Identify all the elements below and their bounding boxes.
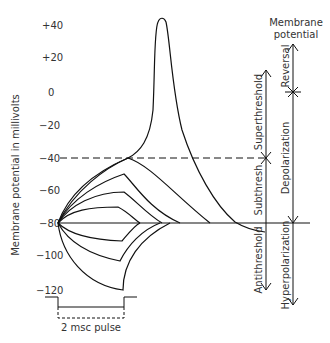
tick-minus40: −40 [39,153,60,164]
header-membrane: Membrane [269,17,323,28]
y-axis-label: Membrane potential in millivolts [10,94,21,256]
tick-0: 0 [48,87,54,98]
threshold-curve [58,158,210,223]
action-potential-curve [58,18,265,232]
stimulus-pulse: 2 msc pulse [45,297,137,333]
pulse-label: 2 msc pulse [61,322,121,333]
label-hyperpolarization: Hyperpolarization [280,221,291,310]
tick-plus20: +20 [42,52,63,63]
subthreshold-curve-1 [58,174,180,223]
y-axis-ticks: +40 +20 0 −20 −40 −60 −80 −100 −120 [36,20,63,296]
label-antithreshold: Antithreshold [253,227,264,294]
tick-minus20: −20 [39,120,60,131]
label-reversal: Reversal [280,45,291,88]
tick-minus120: −120 [36,285,63,296]
tick-minus100: −100 [36,250,63,261]
tick-plus40: +40 [42,20,63,31]
label-depolarization: Depolarization [280,122,291,195]
label-superthreshold: Superthreshold [253,74,264,150]
tick-minus60: −60 [39,185,60,196]
threshold-arrows: Superthreshold Subthresh Antithreshold [253,70,271,293]
tick-minus80: −80 [39,218,60,229]
pulse-waveform [45,297,137,307]
membrane-potential-arrows: Membrane potential Reversal Depolarizati… [269,17,323,309]
header-potential: potential [274,29,318,40]
membrane-potential-diagram: Membrane potential in millivolts +40 +20… [0,0,330,343]
hyperpolarizing-curve-2 [58,223,160,261]
label-subthreshold: Subthresh [253,165,264,216]
pulse-dashed-box [58,307,124,318]
response-curves [58,18,265,290]
